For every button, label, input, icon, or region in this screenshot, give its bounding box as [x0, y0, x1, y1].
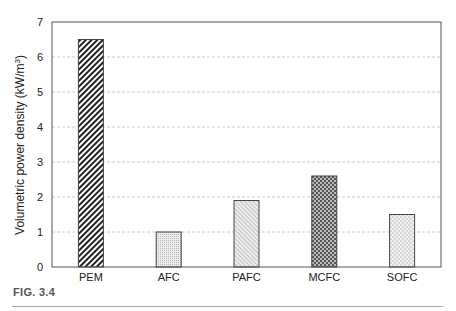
y-tick-label: 7 — [37, 16, 43, 28]
y-axis-ticks: 01234567 — [37, 16, 43, 273]
x-tick-label: PEM — [79, 271, 103, 283]
y-tick-label: 6 — [37, 51, 43, 63]
bar-mcfc — [312, 176, 337, 267]
caption-rule — [12, 306, 443, 307]
x-tick-label: MCFC — [308, 271, 340, 283]
y-tick-label: 4 — [37, 121, 43, 133]
x-tick-label: AFC — [158, 271, 180, 283]
y-axis-label: Volumetric power density (kW/m3) — [13, 55, 27, 235]
y-tick-label: 3 — [37, 156, 43, 168]
x-tick-label: PAFC — [232, 271, 261, 283]
y-tick-label: 1 — [37, 226, 43, 238]
y-tick-label: 2 — [37, 191, 43, 203]
bars — [78, 40, 414, 268]
figure-caption: FIG. 3.4 — [13, 286, 55, 298]
bar-pem — [78, 40, 103, 268]
x-axis-labels: PEMAFCPAFCMCFCSOFC — [79, 271, 417, 283]
bar-sofc — [390, 215, 415, 268]
bar-afc — [156, 232, 181, 267]
x-tick-label: SOFC — [387, 271, 418, 283]
bar-chart: 01234567 PEMAFCPAFCMCFCSOFC Volumetric p… — [0, 0, 456, 311]
y-tick-label: 0 — [37, 261, 43, 273]
y-tick-label: 5 — [37, 86, 43, 98]
bar-pafc — [234, 201, 259, 268]
